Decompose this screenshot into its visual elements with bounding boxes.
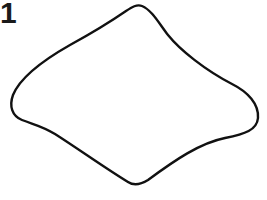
blob-outline-path <box>11 5 258 184</box>
blob-outline-drawing <box>0 0 267 200</box>
